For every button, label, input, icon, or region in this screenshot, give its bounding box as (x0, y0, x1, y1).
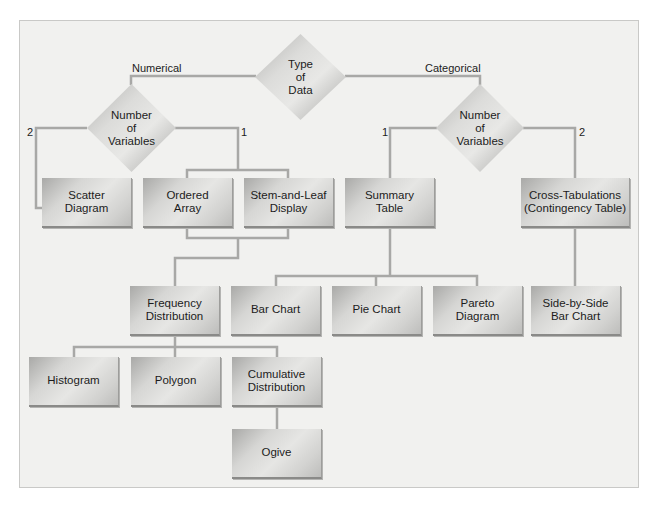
ordered-array-node: Ordered Array (143, 178, 233, 228)
numerical-decision-label: Number of Variables (108, 109, 155, 148)
categorical-two-variables-label: 2 (579, 126, 585, 138)
frequency-distribution-node: Frequency Distribution (130, 286, 220, 336)
scatter-diagram-node: Scatter Diagram (42, 178, 132, 228)
pareto-diagram-node: Pareto Diagram (433, 286, 523, 336)
stem-and-leaf-node: Stem-and-Leaf Display (244, 178, 334, 228)
categorical-decision-label: Number of Variables (456, 109, 503, 148)
pie-chart-node: Pie Chart (332, 286, 422, 336)
numerical-two-variables-label: 2 (27, 126, 33, 138)
numerical-one-variable-label: 1 (241, 126, 247, 138)
ogive-node: Ogive (232, 429, 322, 479)
side-by-side-bar-chart-node: Side-by-Side Bar Chart (531, 286, 621, 336)
categorical-branch-label: Categorical (425, 62, 481, 74)
type-of-data-label: Type of Data (288, 58, 313, 97)
cross-tabulations-node: Cross-Tabulations (Contingency Table) (521, 178, 630, 228)
categorical-one-variable-label: 1 (382, 126, 388, 138)
bar-chart-node: Bar Chart (231, 286, 321, 336)
categorical-number-of-variables-diamond: Number of Variables (436, 84, 524, 172)
numerical-number-of-variables-diamond: Number of Variables (87, 84, 176, 172)
summary-table-node: Summary Table (345, 178, 435, 228)
cumulative-distribution-node: Cumulative Distribution (232, 357, 322, 407)
histogram-node: Histogram (29, 357, 119, 407)
polygon-node: Polygon (131, 357, 221, 407)
numerical-branch-label: Numerical (132, 62, 182, 74)
type-of-data-diamond: Type of Data (255, 34, 346, 120)
